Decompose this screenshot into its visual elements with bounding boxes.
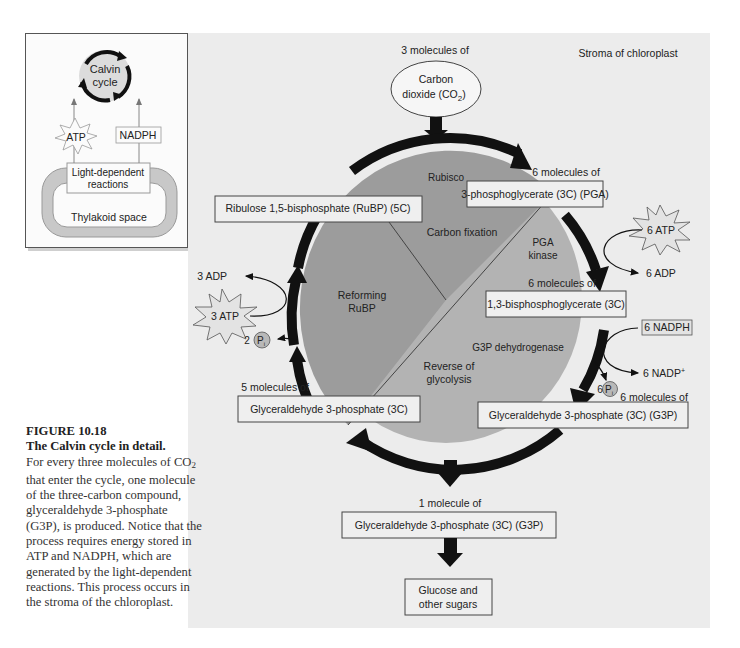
thylakoid-space-label: Thylakoid space <box>71 211 147 223</box>
pga-kinase-label-2: kinase <box>529 250 558 261</box>
rubp-label: Ribulose 1,5-bisphosphate (RuBP) (5C) <box>225 202 410 214</box>
g3p1-count-label: 1 molecule of <box>419 497 482 509</box>
bpg-count-label: 6 molecules of <box>528 277 596 289</box>
carbon-fixation-label: Carbon fixation <box>427 226 498 238</box>
reforming-rubp-label: Reforming <box>338 289 387 301</box>
adp6-label: 6 ADP <box>646 267 676 279</box>
co2-count-label: 3 molecules of <box>401 44 469 56</box>
inset-calvin-label-2: cycle <box>92 76 117 88</box>
glucose-arrow-icon <box>437 553 463 567</box>
g3p5-count-label: 5 molecules of <box>241 381 309 393</box>
stroma-label: Stroma of chloroplast <box>578 47 677 59</box>
glucose-label-2: other sugars <box>419 598 477 610</box>
co2-label: Carbon <box>419 73 454 85</box>
inset-nadph-label: NADPH <box>120 129 157 141</box>
pi6-count-label: 6 <box>597 384 603 395</box>
g3p6-count-label: 6 molecules of <box>620 391 688 403</box>
light-dependent-label: Light-dependent <box>72 167 145 178</box>
reverse-glycolysis-label: Reverse of <box>424 360 475 372</box>
inset-atp-label: ATP <box>66 131 86 143</box>
g3p5-label: Glyceraldehyde 3-phosphate (3C) <box>250 403 408 415</box>
pi2-count-label: 2 <box>244 335 250 346</box>
g3p-dehydrogenase-label: G3P dehydrogenase <box>472 342 564 353</box>
g3p-output-arrow-icon <box>438 473 462 487</box>
pga-kinase-label: PGA <box>532 237 553 248</box>
rubisco-label: Rubisco <box>428 172 465 183</box>
arrow-head-icon <box>289 346 306 362</box>
g3p1-label: Glyceraldehyde 3-phosphate (3C) (G3P) <box>355 519 544 531</box>
glucose-label: Glucose and <box>419 584 478 596</box>
nadp6-label: 6 NADP+ <box>643 367 685 379</box>
pga-label: 3-phosphoglycerate (3C) (PGA) <box>461 188 609 200</box>
bpg-label: 1,3-bisphosphoglycerate (3C) <box>487 298 625 310</box>
reverse-glycolysis-label-2: glycolysis <box>427 373 472 385</box>
nadph6-label: 6 NADPH <box>644 321 690 333</box>
figure-title: The Calvin cycle in detail. <box>26 439 202 454</box>
inset-diagram: Thylakoid space Light-dependent reaction… <box>42 50 177 237</box>
pga-count-label: 6 molecules of <box>532 166 600 178</box>
figure-body: For every three molecules of CO2 that en… <box>26 455 202 611</box>
inset-calvin-label: Calvin <box>90 63 121 75</box>
atp6-label: 6 ATP <box>647 224 675 236</box>
adp3-label: 3 ADP <box>197 270 227 282</box>
g3p6-label: Glyceraldehyde 3-phosphate (3C) (G3P) <box>489 409 678 421</box>
arrow-head-icon <box>346 428 372 452</box>
light-dependent-label-2: reactions <box>88 179 129 190</box>
figure-number: FIGURE 10.18 <box>26 424 202 439</box>
atp3-label: 3 ATP <box>211 310 239 322</box>
figure-caption: FIGURE 10.18 The Calvin cycle in detail.… <box>26 424 202 611</box>
reforming-rubp-label-2: RuBP <box>348 302 375 314</box>
